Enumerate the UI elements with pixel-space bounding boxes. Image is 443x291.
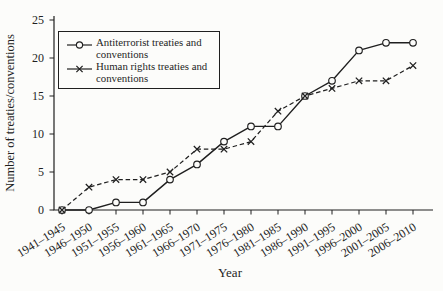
data-point-circle-marker (329, 78, 336, 85)
treaties-line-chart-figure: 05101520251941–19451946–19501951–1955195… (0, 0, 443, 291)
data-point-x-marker (86, 184, 92, 190)
data-point-circle-marker (275, 123, 282, 130)
data-point-circle-marker (194, 161, 201, 168)
data-point-circle-marker (248, 123, 255, 130)
data-point-circle-marker (86, 207, 93, 214)
legend-box: Antiterrorist treaties and conventions H… (58, 31, 220, 89)
y-tick-label: 0 (38, 203, 44, 217)
data-point-x-marker (275, 108, 281, 114)
y-tick-label: 5 (38, 165, 44, 179)
x-axis-title: Year (160, 265, 300, 281)
data-point-x-marker (410, 62, 416, 68)
y-tick-label: 20 (32, 51, 44, 65)
data-point-x-marker (167, 169, 173, 175)
legend-label-human-rights: Human rights treaties and conventions (96, 61, 207, 84)
data-point-circle-marker (383, 40, 390, 47)
data-point-circle-marker (221, 138, 228, 145)
legend-label-antiterrorist: Antiterrorist treaties and conventions (96, 37, 202, 60)
data-point-x-marker (113, 176, 119, 182)
legend-item-human-rights: Human rights treaties and conventions (66, 61, 217, 84)
data-point-circle-marker (356, 47, 363, 54)
data-point-circle-marker (167, 176, 174, 183)
legend-x-marker-icon (66, 63, 93, 75)
y-tick-label: 25 (32, 13, 44, 27)
data-point-circle-marker (113, 199, 120, 206)
legend-item-antiterrorist: Antiterrorist treaties and conventions (66, 37, 217, 60)
y-axis-title: Number of treaties/conventions (3, 13, 19, 213)
legend-circle-marker-icon (66, 39, 93, 51)
data-point-circle-marker (410, 40, 417, 47)
legend-circle-glyph (76, 42, 82, 48)
data-point-circle-marker (140, 199, 147, 206)
data-point-x-marker (329, 85, 335, 91)
y-tick-label: 10 (32, 127, 44, 141)
y-tick-label: 15 (32, 89, 44, 103)
data-point-x-marker (248, 138, 254, 144)
